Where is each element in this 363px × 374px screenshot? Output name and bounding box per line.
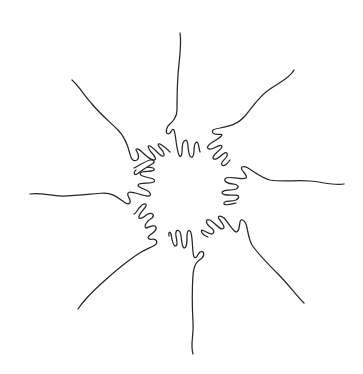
illustration-canvas: Eight hands reaching inward forming a ci…	[0, 0, 363, 374]
hand-upper-left	[72, 80, 170, 175]
hand-lower-right	[201, 216, 304, 303]
hand-upper-right	[207, 70, 294, 166]
hand-bottom	[169, 230, 204, 354]
hand-left	[30, 167, 154, 204]
hand-right	[222, 167, 344, 205]
hands-circle-illustration	[0, 0, 363, 374]
hand-lower-left	[78, 204, 157, 309]
hand-top	[166, 33, 200, 157]
